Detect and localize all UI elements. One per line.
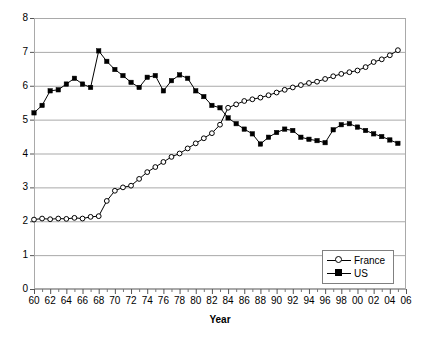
data-point bbox=[194, 89, 198, 93]
data-point bbox=[193, 141, 198, 146]
data-point bbox=[266, 93, 271, 98]
data-point bbox=[307, 137, 311, 141]
series-france bbox=[32, 48, 401, 222]
data-point bbox=[242, 127, 246, 131]
data-point bbox=[113, 67, 117, 71]
y-axis-tick-label: 2 bbox=[6, 216, 28, 226]
data-point bbox=[339, 123, 343, 127]
data-point bbox=[331, 128, 335, 132]
data-point bbox=[72, 76, 76, 80]
data-point bbox=[185, 146, 190, 151]
data-point bbox=[274, 90, 279, 95]
data-point bbox=[307, 81, 312, 86]
data-point bbox=[315, 138, 319, 142]
data-point bbox=[347, 121, 351, 125]
data-point bbox=[185, 76, 189, 80]
data-point bbox=[234, 121, 238, 125]
data-point bbox=[161, 89, 165, 93]
data-point bbox=[121, 73, 125, 77]
data-point bbox=[161, 160, 166, 165]
y-axis-tick-label: 6 bbox=[6, 81, 28, 91]
data-point bbox=[202, 94, 206, 98]
x-axis-tick-label: 06 bbox=[394, 296, 418, 306]
data-point bbox=[129, 183, 134, 188]
data-point bbox=[226, 116, 230, 120]
data-point bbox=[112, 188, 117, 193]
data-point bbox=[56, 216, 61, 221]
data-point bbox=[32, 111, 36, 115]
data-point bbox=[355, 125, 359, 129]
data-point bbox=[177, 73, 181, 77]
data-point bbox=[290, 85, 295, 90]
data-point bbox=[371, 132, 375, 136]
chart-legend: FranceUS bbox=[322, 250, 394, 284]
data-point bbox=[282, 87, 287, 92]
data-point bbox=[104, 199, 109, 204]
data-point bbox=[48, 217, 53, 222]
data-point bbox=[250, 97, 255, 102]
data-point bbox=[388, 138, 392, 142]
data-point bbox=[88, 214, 93, 219]
data-point bbox=[177, 151, 182, 156]
data-point bbox=[56, 88, 60, 92]
data-point bbox=[379, 57, 384, 62]
legend-label: France bbox=[354, 255, 385, 266]
data-point bbox=[258, 95, 263, 100]
data-point bbox=[387, 53, 392, 58]
legend-item-us[interactable]: US bbox=[327, 267, 388, 280]
y-axis-tick-label: 5 bbox=[6, 115, 28, 125]
y-axis-tick-label: 1 bbox=[6, 250, 28, 260]
data-point bbox=[274, 130, 278, 134]
data-point bbox=[64, 82, 68, 86]
open-circle-marker-icon bbox=[327, 255, 351, 266]
y-axis-tick-label: 4 bbox=[6, 149, 28, 159]
data-point bbox=[396, 48, 401, 53]
data-point bbox=[299, 135, 303, 139]
data-point bbox=[40, 103, 44, 107]
legend-item-france[interactable]: France bbox=[327, 254, 388, 267]
data-point bbox=[80, 216, 85, 221]
data-point bbox=[226, 105, 231, 110]
data-point bbox=[218, 122, 223, 127]
data-point bbox=[105, 59, 109, 63]
data-point bbox=[355, 68, 360, 73]
series-line bbox=[34, 51, 398, 144]
data-point bbox=[242, 99, 247, 104]
series-us bbox=[32, 49, 400, 147]
data-point bbox=[129, 80, 133, 84]
data-point bbox=[153, 73, 157, 77]
data-point bbox=[32, 217, 37, 222]
legend-label: US bbox=[354, 268, 368, 279]
chart-plot-area bbox=[0, 0, 421, 344]
data-point bbox=[339, 71, 344, 76]
line-chart: 0123456786062646668707274767880828486889… bbox=[0, 0, 421, 344]
data-point bbox=[347, 70, 352, 75]
data-point bbox=[169, 78, 173, 82]
data-point bbox=[371, 60, 376, 65]
data-point bbox=[96, 214, 101, 219]
data-point bbox=[72, 215, 77, 220]
data-point bbox=[363, 65, 368, 70]
filled-square-marker-icon bbox=[327, 268, 351, 279]
x-axis-title: Year bbox=[34, 314, 406, 325]
data-point bbox=[137, 85, 141, 89]
data-point bbox=[234, 102, 239, 107]
data-point bbox=[153, 165, 158, 170]
data-point bbox=[250, 132, 254, 136]
data-point bbox=[88, 85, 92, 89]
data-point bbox=[64, 216, 69, 221]
data-point bbox=[210, 103, 214, 107]
data-point bbox=[121, 185, 126, 190]
data-point bbox=[145, 75, 149, 79]
data-point bbox=[380, 134, 384, 138]
data-point bbox=[396, 141, 400, 145]
y-axis-tick-label: 0 bbox=[6, 284, 28, 294]
data-point bbox=[201, 136, 206, 141]
y-axis-tick-label: 3 bbox=[6, 182, 28, 192]
data-point bbox=[323, 77, 328, 82]
data-point bbox=[40, 216, 45, 221]
data-point bbox=[48, 89, 52, 93]
data-point bbox=[145, 170, 150, 175]
data-point bbox=[291, 128, 295, 132]
data-point bbox=[298, 83, 303, 88]
